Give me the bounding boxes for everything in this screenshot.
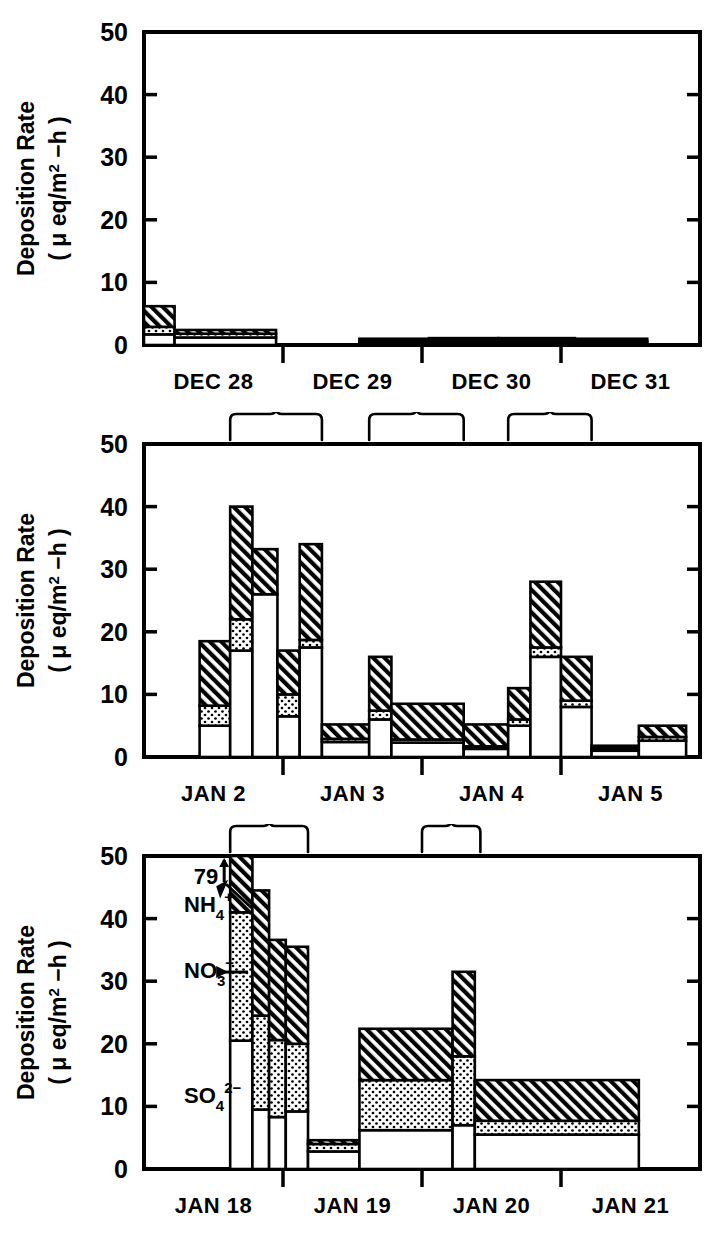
stacked-bar — [561, 657, 592, 757]
bar-segment-no3 — [200, 706, 231, 726]
x-tick-label: JAN 21 — [592, 1193, 670, 1218]
event-bracket — [508, 412, 591, 440]
bar-segment-nh4 — [286, 947, 308, 1044]
svg-text:( μ eq/m2 −h ): ( μ eq/m2 −h ) — [45, 116, 71, 260]
bar-segment-nh4 — [175, 330, 276, 334]
stacked-bar — [175, 330, 276, 345]
event-bracket — [230, 412, 322, 440]
bar-segment-nh4 — [252, 890, 269, 1015]
bar-segment-nh4 — [453, 972, 475, 1057]
y-tick-label: 50 — [100, 842, 128, 870]
bar-segment-so4 — [369, 719, 391, 757]
y-tick-label: 20 — [100, 206, 128, 234]
chart-panel-jan-2-5: Deposition Rate( μ eq/m2 −h )01020304050… — [0, 412, 714, 822]
bar-segment-so4 — [639, 741, 686, 757]
bar-segment-nh4 — [144, 306, 175, 327]
stacked-bar — [575, 339, 647, 345]
bar-segment-nh4 — [391, 704, 463, 740]
x-tick-label: JAN 4 — [459, 781, 524, 806]
x-tick-label: JAN 3 — [320, 781, 385, 806]
stacked-bar — [475, 1080, 639, 1169]
stacked-bar — [300, 544, 322, 757]
bar-segment-so4 — [252, 1110, 269, 1169]
stacked-bar — [230, 856, 252, 1169]
stacked-bar — [322, 724, 369, 757]
bar-segment-so4 — [475, 1135, 639, 1169]
x-tick-label: DEC 28 — [173, 369, 253, 394]
y-axis-label: Deposition Rate — [13, 925, 39, 1100]
x-tick-label: JAN 19 — [314, 1193, 392, 1218]
y-tick-label: 30 — [100, 555, 128, 583]
svg-text:Deposition Rate: Deposition Rate — [13, 925, 39, 1100]
bar-segment-so4 — [252, 594, 277, 757]
bar-segment-so4 — [144, 334, 175, 345]
stacked-bar — [429, 338, 499, 345]
y-tick-label: 50 — [100, 18, 128, 46]
bar-segment-so4 — [453, 1125, 475, 1169]
bar-segment-so4 — [308, 1151, 359, 1169]
stacked-bar — [252, 890, 269, 1169]
chart-svg: Deposition Rate( μ eq/m2 −h )01020304050… — [0, 412, 714, 822]
bar-segment-no3 — [286, 1044, 308, 1112]
x-tick-label: JAN 18 — [175, 1193, 253, 1218]
y-axis-units: ( μ eq/m2 −h ) — [45, 940, 71, 1084]
bar-segment-nh4 — [369, 657, 391, 711]
stacked-bar — [308, 1140, 359, 1169]
event-bracket — [230, 824, 308, 852]
bar-segment-no3 — [230, 619, 252, 650]
stacked-bar — [252, 549, 277, 757]
bar-segment-nh4 — [429, 338, 499, 341]
event-bracket — [422, 824, 480, 852]
bar-segment-so4 — [277, 716, 299, 757]
y-tick-label: 30 — [100, 967, 128, 995]
bar-segment-no3 — [359, 1080, 452, 1130]
bar-segment-no3 — [530, 647, 561, 656]
bar-segment-so4 — [230, 651, 252, 757]
x-tick-label: JAN 5 — [598, 781, 663, 806]
event-bracket — [369, 412, 464, 440]
bar-segment-so4 — [530, 657, 561, 757]
bar-segment-nh4 — [359, 339, 429, 341]
bar-segment-no3 — [269, 1040, 286, 1117]
stacked-bar — [277, 651, 299, 757]
x-tick-label: JAN 2 — [181, 781, 246, 806]
bar-segment-so4 — [508, 726, 530, 757]
y-tick-label: 0 — [114, 743, 128, 771]
bar-segment-so4 — [391, 743, 463, 757]
bar-segment-nh4 — [300, 544, 322, 640]
y-tick-label: 0 — [114, 331, 128, 359]
stacked-bar — [269, 940, 286, 1169]
overflow-arrow-head-icon — [219, 858, 229, 867]
bar-segment-no3 — [369, 711, 391, 720]
y-tick-label: 50 — [100, 430, 128, 458]
bar-segment-nh4 — [508, 688, 530, 719]
deposition-rate-figure: Deposition Rate( μ eq/m2 −h )01020304050… — [0, 0, 714, 1234]
y-axis-units: ( μ eq/m2 −h ) — [45, 116, 71, 260]
bar-segment-nh4 — [308, 1140, 359, 1144]
x-tick-label: DEC 31 — [590, 369, 670, 394]
bar-segment-so4 — [230, 1041, 252, 1169]
bar-segment-so4 — [359, 1130, 452, 1169]
stacked-bar — [530, 582, 561, 757]
bar-segment-nh4 — [230, 507, 252, 620]
y-tick-label: 30 — [100, 143, 128, 171]
bar-segment-nh4 — [561, 657, 592, 701]
bar-segment-nh4 — [639, 726, 686, 737]
bar-segment-no3 — [453, 1056, 475, 1125]
bar-segment-nh4 — [322, 724, 369, 738]
stacked-bar — [286, 947, 308, 1169]
stacked-bar — [639, 726, 686, 757]
stacked-bar — [359, 1029, 452, 1169]
plot-frame — [144, 32, 700, 345]
bar-segment-so4 — [200, 726, 231, 757]
y-tick-label: 20 — [100, 1030, 128, 1058]
bar-segment-no3 — [230, 912, 252, 1040]
stacked-bar — [200, 641, 231, 757]
bar-segment-nh4 — [200, 641, 231, 705]
bar-segment-nh4 — [359, 1029, 452, 1080]
svg-text:( μ eq/m2 −h ): ( μ eq/m2 −h ) — [45, 528, 71, 672]
chart-svg: Deposition Rate( μ eq/m2 −h )01020304050… — [0, 824, 714, 1234]
bar-segment-so4 — [269, 1117, 286, 1169]
chart-panel-jan-18-21: Deposition Rate( μ eq/m2 −h )01020304050… — [0, 824, 714, 1234]
overflow-value-label: 79 — [194, 864, 218, 889]
